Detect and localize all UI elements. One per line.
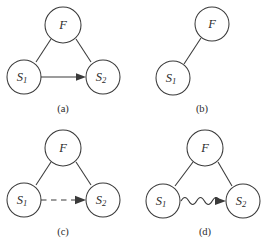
edge-f-s2	[76, 162, 91, 185]
panel-c: F S1 S2 (c)	[0, 123, 132, 245]
panel-a-diagram: F S1 S2 (a)	[0, 0, 132, 122]
edge-s1-s2-arrowhead	[76, 73, 86, 81]
edge-s1-s2-arrowhead	[75, 196, 86, 204]
node-f-label: F	[58, 141, 67, 155]
panel-a-caption: (a)	[57, 103, 69, 115]
edge-s1-s2-wavy-shaft	[181, 198, 220, 205]
panel-b-diagram: F S1 (b)	[133, 0, 265, 122]
figure-root: F S1 S2 (a) F S1 (b)	[0, 0, 265, 245]
edge-f-s1	[36, 162, 51, 185]
panel-d: F S1 S2 (d)	[133, 123, 265, 245]
panel-d-caption: (d)	[199, 226, 212, 238]
edge-f-s1	[184, 38, 201, 64]
panel-a: F S1 S2 (a)	[0, 0, 132, 122]
node-f-label: F	[58, 18, 67, 32]
node-f-label: F	[207, 17, 216, 31]
edge-s1-s2-arrowhead	[215, 197, 226, 205]
panel-c-caption: (c)	[57, 226, 69, 238]
panel-b-caption: (b)	[196, 103, 209, 115]
edge-f-s2	[218, 162, 232, 186]
node-f-label: F	[200, 141, 209, 155]
edge-f-s1	[36, 39, 51, 62]
panel-b: F S1 (b)	[133, 0, 265, 122]
edge-f-s1	[175, 162, 193, 186]
panel-d-diagram: F S1 S2 (d)	[133, 123, 265, 245]
panel-c-diagram: F S1 S2 (c)	[0, 123, 132, 245]
edge-f-s2	[76, 39, 91, 62]
